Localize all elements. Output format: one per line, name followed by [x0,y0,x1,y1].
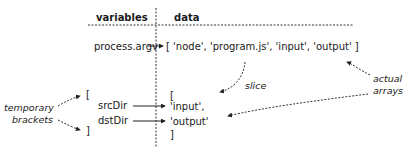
temp-bracket-close: ] [86,125,90,136]
temporary-brackets-line1: temporary [4,102,54,113]
actual-arrays-line2: arrays [373,85,403,96]
array-bracket-open: [ [170,90,174,101]
temp-arrow-top [58,96,80,106]
slice-label: slice [245,80,266,91]
argv-array: [ 'node', 'program.js', 'input', 'output… [166,41,359,52]
temp-arrow-bottom [58,120,80,130]
array-bracket-close: ] [170,129,174,140]
actual-arrow-bottom [228,94,368,116]
actual-arrow-top [347,62,370,75]
actual-arrays-line1: actual [373,73,403,84]
temp-bracket-open: [ [86,89,90,100]
src-value: 'input', [170,101,204,112]
temporary-brackets-line2: brackets [12,114,53,125]
var-srcdir: srcDir [98,100,128,111]
slice-arrow [220,62,245,92]
diagram-canvas: variables data process.argv [ 'node', 'p… [0,0,411,153]
dst-value: 'output' [170,116,208,127]
header-data: data [174,12,199,23]
var-dstdir: dstDir [98,115,129,126]
header-variables: variables [96,12,148,23]
